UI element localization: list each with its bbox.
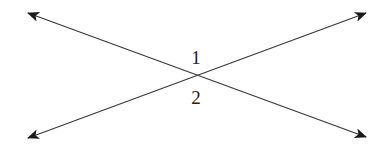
intersecting-lines-diagram: 1 2 [0, 0, 389, 153]
angle-label-1: 1 [191, 47, 201, 68]
angle-label-2: 2 [191, 87, 201, 108]
diagram-svg: 1 2 [0, 0, 389, 153]
